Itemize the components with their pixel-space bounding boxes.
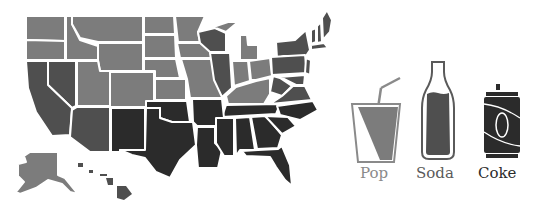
- state-washington: [26, 16, 65, 41]
- state-pennsylvania: [271, 55, 307, 75]
- legend-label-pop: Pop: [360, 164, 388, 182]
- bottle-icon: [418, 58, 458, 162]
- state-montana: [72, 16, 143, 42]
- state-indiana: [232, 61, 250, 86]
- state-arizona: [70, 107, 110, 152]
- state-michigan: [240, 35, 258, 60]
- legend-label-soda: Soda: [416, 164, 454, 182]
- state-tennessee: [222, 104, 280, 117]
- state-new-york: [276, 30, 310, 58]
- legend-label-coke: Coke: [478, 164, 516, 182]
- state-massachusetts: [311, 43, 328, 50]
- legend-item-pop: Pop: [348, 74, 408, 184]
- state-wyoming: [98, 43, 143, 71]
- state-new-jersey: [305, 58, 311, 75]
- us-map: [0, 0, 345, 208]
- state-new-hampshire: [317, 22, 322, 43]
- state-kansas: [155, 79, 186, 100]
- state-ohio: [249, 58, 272, 80]
- state-maine: [322, 10, 332, 40]
- state-florida: [242, 146, 292, 186]
- cup-with-straw-icon: [348, 74, 408, 164]
- legend-item-coke: Coke: [476, 82, 526, 184]
- state-alaska: [16, 152, 78, 194]
- state-north-dakota: [144, 16, 175, 34]
- state-oregon: [26, 40, 65, 60]
- legend-item-soda: Soda: [414, 58, 464, 184]
- can-icon: [482, 82, 522, 162]
- state-hawaii: [78, 163, 132, 200]
- state-south-dakota: [144, 35, 176, 58]
- state-vermont: [311, 28, 316, 44]
- state-new-mexico: [111, 108, 145, 152]
